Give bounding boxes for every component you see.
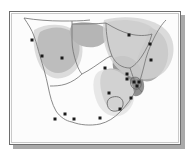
locality-marker bbox=[136, 85, 139, 88]
locality-marker bbox=[108, 92, 111, 95]
locality-marker bbox=[41, 55, 44, 58]
locality-marker bbox=[128, 34, 131, 37]
figure-root: Southern Africa distribution map bbox=[0, 0, 193, 158]
locality-marker bbox=[126, 73, 129, 76]
locality-marker bbox=[130, 97, 133, 100]
locality-marker bbox=[149, 43, 152, 46]
locality-marker bbox=[64, 113, 67, 116]
locality-marker bbox=[138, 81, 141, 84]
locality-marker bbox=[126, 78, 129, 81]
locality-marker bbox=[54, 118, 57, 121]
locality-marker bbox=[73, 118, 76, 121]
map-canvas bbox=[10, 12, 180, 144]
locality-marker bbox=[31, 39, 34, 42]
locality-marker bbox=[150, 59, 153, 62]
locality-marker bbox=[104, 67, 107, 70]
locality-marker bbox=[61, 57, 64, 60]
locality-marker bbox=[99, 117, 102, 120]
locality-marker bbox=[119, 108, 122, 111]
map-frame bbox=[9, 11, 181, 145]
locality-marker bbox=[133, 81, 136, 84]
